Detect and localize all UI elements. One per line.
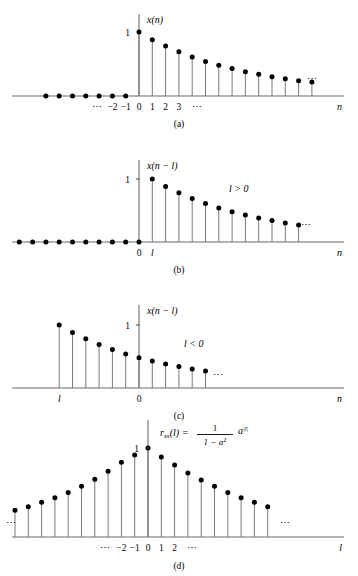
stem-dot bbox=[52, 495, 57, 500]
tail-ellipsis-c: ⋯ bbox=[213, 370, 224, 380]
tail-ellipsis-b: ⋯ bbox=[301, 220, 312, 230]
stem-dot bbox=[252, 500, 257, 505]
stem-dot bbox=[230, 209, 235, 214]
stem-dot bbox=[83, 94, 88, 99]
tail-ellipsis-a: ⋯ bbox=[307, 74, 318, 84]
tick-label: 0 bbox=[137, 102, 142, 112]
tick-labels-b: 0l bbox=[137, 248, 154, 258]
stem-dot bbox=[70, 94, 75, 99]
tick-label: ⋯ bbox=[100, 543, 111, 553]
stem-dot bbox=[296, 78, 301, 83]
tick-label: ⋯ bbox=[192, 102, 203, 112]
stem-dot bbox=[230, 66, 235, 71]
stem-dot bbox=[79, 484, 84, 489]
formula-denominator: 1 − a2 bbox=[204, 436, 227, 447]
panel-c: 1x(n − l)nl < 0(c) bbox=[12, 305, 344, 422]
tick-label: −1 bbox=[121, 102, 131, 112]
tail-ellipsis-c-text: ⋯ bbox=[213, 370, 224, 380]
stem-dot bbox=[239, 495, 244, 500]
stem-dot bbox=[30, 240, 35, 245]
tick-label: ⋯ bbox=[92, 102, 103, 112]
stem-dot bbox=[212, 484, 217, 489]
stem-dot bbox=[163, 184, 168, 189]
stem-dot bbox=[57, 323, 62, 328]
panel-b: 1x(n − l)nl > 0(b) bbox=[12, 160, 344, 276]
panels-root: 1x(n)n(a)1x(n − l)nl > 0(b)1x(n − l)nl <… bbox=[6, 14, 344, 572]
stem-dot bbox=[283, 221, 288, 226]
y-axis-label: x(n − l) bbox=[146, 160, 178, 172]
tick-labels-d: ⋯−2−1012⋯ bbox=[100, 543, 197, 553]
stem-dot bbox=[123, 240, 128, 245]
lead-ellipsis-d: ⋯ bbox=[6, 518, 17, 528]
tick-label: 0 bbox=[137, 248, 142, 258]
stem-dot bbox=[110, 94, 115, 99]
stem-dot bbox=[70, 240, 75, 245]
stem-dot bbox=[119, 460, 124, 465]
panel-caption: (d) bbox=[173, 561, 184, 572]
tick-label: 2 bbox=[163, 102, 168, 112]
stem-dot bbox=[172, 462, 177, 467]
tick-label: ⋯ bbox=[187, 543, 198, 553]
stem-dot bbox=[243, 69, 248, 74]
tick-label: −1 bbox=[130, 543, 140, 553]
annotation-b: l > 0 bbox=[229, 183, 249, 194]
x-axis-label: n bbox=[337, 247, 342, 258]
stem-dot bbox=[43, 94, 48, 99]
stem-dot bbox=[97, 94, 102, 99]
stem-dot bbox=[92, 477, 97, 482]
stem-dot bbox=[137, 355, 142, 360]
stem-dot bbox=[256, 216, 261, 221]
stem-dot bbox=[190, 196, 195, 201]
stem-dot bbox=[106, 469, 111, 474]
lead-ellipsis-d-text: ⋯ bbox=[6, 518, 17, 528]
stem-dot bbox=[265, 504, 270, 509]
stem-dot bbox=[110, 347, 115, 352]
stem-dot bbox=[123, 94, 128, 99]
panel-caption: (a) bbox=[174, 119, 185, 130]
stem-dot bbox=[150, 177, 155, 182]
panel-caption: (c) bbox=[174, 411, 185, 422]
stem-dot bbox=[137, 30, 142, 35]
y-axis-label: x(n − l) bbox=[146, 305, 178, 317]
tick-label: l bbox=[58, 394, 61, 404]
value-one-label: 1 bbox=[125, 28, 130, 38]
stem-dot bbox=[57, 240, 62, 245]
stem-dot bbox=[190, 367, 195, 372]
tick-labels-c: l0 bbox=[58, 394, 142, 404]
stem-dot bbox=[150, 37, 155, 42]
stem-dot bbox=[159, 454, 164, 459]
tick-label: 1 bbox=[159, 543, 164, 553]
stem-dot bbox=[70, 330, 75, 335]
stem-dot bbox=[216, 205, 221, 210]
figure-stem-plots: 1x(n)n(a)1x(n − l)nl > 0(b)1x(n − l)nl <… bbox=[0, 0, 358, 576]
tick-label: 3 bbox=[177, 102, 182, 112]
stem-dot bbox=[176, 364, 181, 369]
panel-a: 1x(n)n(a) bbox=[12, 14, 344, 130]
stem-dot bbox=[176, 49, 181, 54]
stem-dot bbox=[123, 351, 128, 356]
stem-dot bbox=[83, 240, 88, 245]
stem-dot bbox=[17, 240, 22, 245]
stem-dot bbox=[110, 240, 115, 245]
stem-dot bbox=[26, 504, 31, 509]
tick-label: 2 bbox=[172, 543, 177, 553]
tick-label: −2 bbox=[107, 102, 117, 112]
tick-label: 0 bbox=[137, 394, 142, 404]
stem-dot bbox=[225, 490, 230, 495]
stem-dot bbox=[97, 240, 102, 245]
tick-label: −2 bbox=[116, 543, 126, 553]
value-one-label: 1 bbox=[125, 321, 130, 331]
formula-lhs: rxx(l) = bbox=[160, 427, 188, 439]
stem-dot bbox=[199, 478, 204, 483]
stem-dot bbox=[270, 74, 275, 79]
stem-dot bbox=[185, 470, 190, 475]
formula-rxx: rxx(l) =11 − a2a|l| bbox=[160, 423, 249, 447]
stem-dot bbox=[243, 212, 248, 217]
stem-dot bbox=[57, 94, 62, 99]
stem-dot bbox=[97, 342, 102, 347]
tick-label: 0 bbox=[146, 543, 151, 553]
stem-dot bbox=[190, 54, 195, 59]
stem-dot bbox=[270, 218, 275, 223]
panel-d: 1l(d) bbox=[12, 420, 344, 572]
stem-dot bbox=[283, 76, 288, 81]
